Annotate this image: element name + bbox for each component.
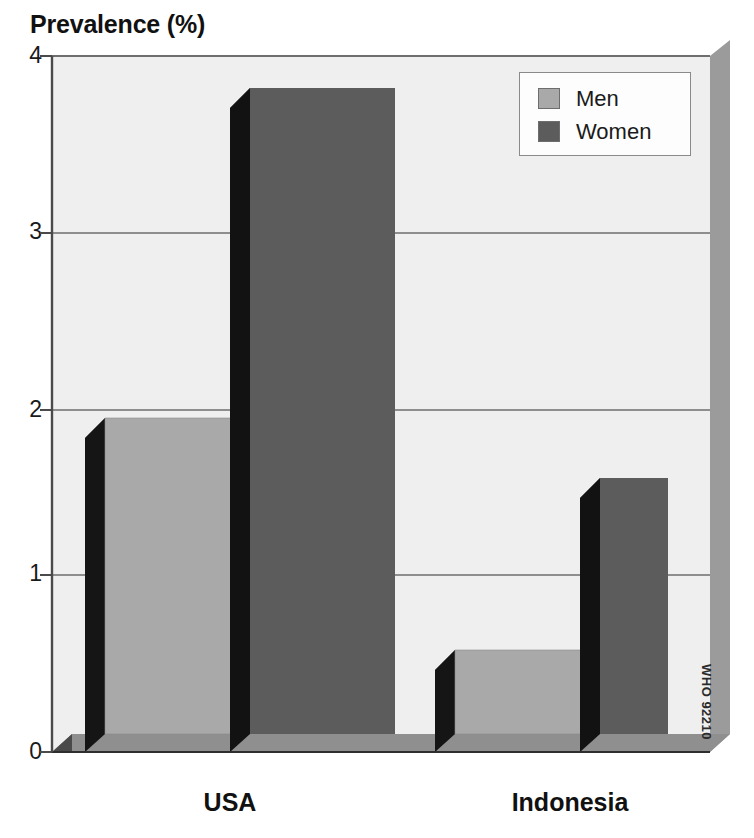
legend: Men Women [519,72,691,156]
bar-usa-men-front [105,418,250,734]
bar-indonesia-men-front [455,650,600,734]
who-credit-text: WHO 92210 [699,664,714,740]
legend-label-women: Women [576,119,651,145]
category-label-usa: USA [150,788,310,817]
bar-indonesia-women-side [580,478,600,752]
legend-item-men: Men [538,82,690,115]
category-label-indonesia: Indonesia [470,788,670,817]
bar-usa-women [230,88,395,752]
bar-usa-women-front [250,88,395,734]
bar-usa-men [85,418,250,752]
bar-chart: Prevalence (%) 4 3 2 1 0 [0,0,754,838]
bar-usa-women-side [230,88,250,752]
legend-swatch-men [538,88,560,109]
bar-usa-men-side [85,418,105,752]
legend-label-men: Men [576,86,619,112]
plot-floor [52,734,730,752]
legend-swatch-women [538,121,560,142]
bar-indonesia-women [580,478,668,752]
bar-indonesia-women-front [600,478,668,734]
plot-right-wall [710,40,730,752]
legend-item-women: Women [538,115,690,148]
